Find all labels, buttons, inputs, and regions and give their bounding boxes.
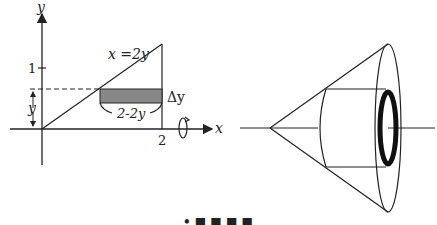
- curve-label: x =2y: [108, 46, 150, 62]
- tick-label-x-2: 2: [158, 133, 166, 148]
- cone-upper-edge: [270, 44, 388, 128]
- cylinder-left-face: [320, 89, 326, 167]
- height-label: y: [27, 100, 37, 116]
- solid-of-revolution-figure: y x 1 2 x =2y Δy 2-2y y: [0, 0, 437, 225]
- left-graph: y x 1 2 x =2y Δy 2-2y y: [10, 0, 223, 165]
- cone-lower-edge: [270, 128, 388, 212]
- tick-label-y-1: 1: [28, 61, 36, 76]
- x-axis-label: x: [215, 120, 223, 136]
- figure-caption: • ■ ■ ■ ■: [183, 215, 253, 225]
- y-axis-label: y: [36, 0, 46, 15]
- rotation-icon: [179, 117, 189, 138]
- delta-y-label: Δy: [167, 89, 185, 105]
- right-solid: [240, 44, 435, 212]
- shaded-strip: [100, 89, 162, 103]
- width-label: 2-2y: [116, 106, 146, 121]
